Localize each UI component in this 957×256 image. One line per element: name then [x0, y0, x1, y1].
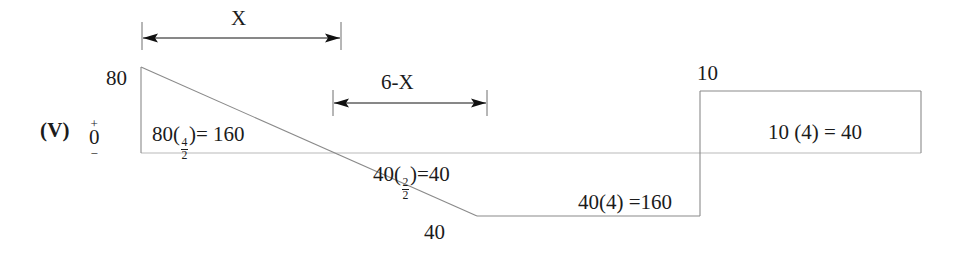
ordinate-label-10: 10 — [697, 63, 718, 84]
area-right-rectangle-label: 10 (4) = 40 — [768, 122, 862, 143]
area-left-fraction: 42 — [181, 137, 189, 162]
sign-zero: 0 — [89, 127, 100, 147]
area-mid-coefficient: 40 — [373, 162, 394, 186]
area-left-paren-close: ) — [189, 122, 196, 146]
sign-minus: − — [91, 147, 98, 157]
area-mid-paren-close: ) — [410, 162, 417, 186]
area-mid-denominator: 2 — [402, 189, 410, 202]
area-left-triangle-label: 80(42)= 160 — [152, 124, 244, 162]
area-left-coefficient: 80 — [152, 122, 173, 146]
area-mid-numerator: 2 — [402, 177, 410, 189]
sign-stack: + 0 − — [89, 117, 100, 157]
area-left-paren-open: ( — [173, 122, 180, 146]
ordinate-label-80: 80 — [106, 68, 127, 89]
x-dimension-label: X — [231, 8, 246, 29]
area-left-numerator: 4 — [181, 137, 189, 149]
area-bottom-rectangle-label: 40(4) =160 — [578, 192, 672, 213]
axis-label-v: (V) — [40, 120, 70, 141]
area-mid-fraction: 22 — [402, 177, 410, 202]
area-left-equals: = 160 — [196, 122, 245, 146]
area-mid-equals: =40 — [417, 162, 450, 186]
area-mid-triangle-label: 40(22)=40 — [373, 164, 450, 202]
six-minus-x-dimension-label: 6-X — [381, 72, 414, 93]
ordinate-label-40: 40 — [424, 222, 445, 243]
area-left-denominator: 2 — [181, 149, 189, 162]
area-mid-paren-open: ( — [394, 162, 401, 186]
shear-force-diagram: X 6-X (V) + 0 − 80 40 10 80(42)= 160 40(… — [0, 0, 957, 256]
